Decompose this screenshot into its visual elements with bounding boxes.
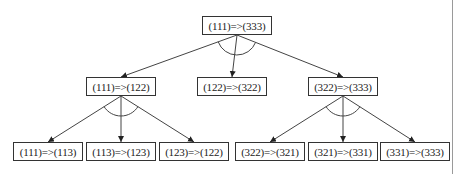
- node-leaf-3: (123)=>(122): [159, 142, 229, 161]
- node-mid-left: (111)=>(122): [86, 77, 156, 96]
- edge-root-m2: [232, 35, 237, 77]
- node-leaf-6: (331)=>(333): [380, 142, 450, 161]
- node-root: (111)=>(333): [202, 16, 272, 35]
- node-mid-center: (122)=>(322): [197, 77, 267, 96]
- edge-m1-b1: [48, 96, 121, 142]
- node-leaf-1: (111)=>(113): [13, 142, 83, 161]
- node-leaf-5: (321)=>(331): [308, 142, 378, 161]
- edge-m3-b6: [343, 96, 415, 142]
- node-leaf-4: (322)=>(321): [235, 142, 305, 161]
- right-border-line: [452, 0, 453, 174]
- edge-m3-b4: [270, 96, 343, 142]
- node-leaf-2: (113)=>(123): [86, 142, 156, 161]
- decomposition-tree-diagram: (111)=>(333) (111)=>(122) (122)=>(322) (…: [0, 0, 463, 174]
- node-mid-right: (322)=>(333): [308, 77, 378, 96]
- edge-m1-b3: [121, 96, 194, 142]
- edge-root-m1: [121, 35, 237, 77]
- edge-root-m3: [237, 35, 343, 77]
- and-arc-root: [218, 42, 255, 55]
